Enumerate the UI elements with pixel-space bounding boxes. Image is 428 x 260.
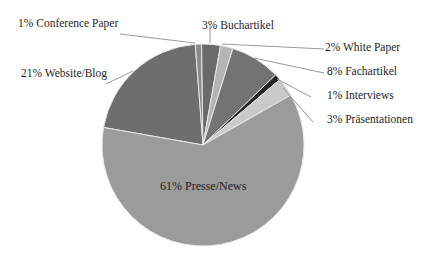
label-conference-paper: 1% Conference Paper <box>18 17 118 30</box>
label-praesentationen: 3% Präsentationen <box>327 113 413 126</box>
pie-chart: 1% Conference Paper 3% Buchartikel 2% Wh… <box>0 0 428 260</box>
label-white-paper: 2% White Paper <box>325 41 400 54</box>
label-presse-news: 61% Presse/News <box>160 180 246 193</box>
label-interviews: 1% Interviews <box>327 89 394 102</box>
label-buchartikel: 3% Buchartikel <box>202 19 274 32</box>
pie-slices <box>102 44 304 246</box>
pie-chart-canvas <box>0 0 428 260</box>
label-fachartikel: 8% Fachartikel <box>327 65 397 78</box>
leader-line-conference-paper <box>120 34 195 43</box>
leader-line-white-paper <box>222 44 324 49</box>
label-website-blog: 21% Website/Blog <box>21 67 107 80</box>
